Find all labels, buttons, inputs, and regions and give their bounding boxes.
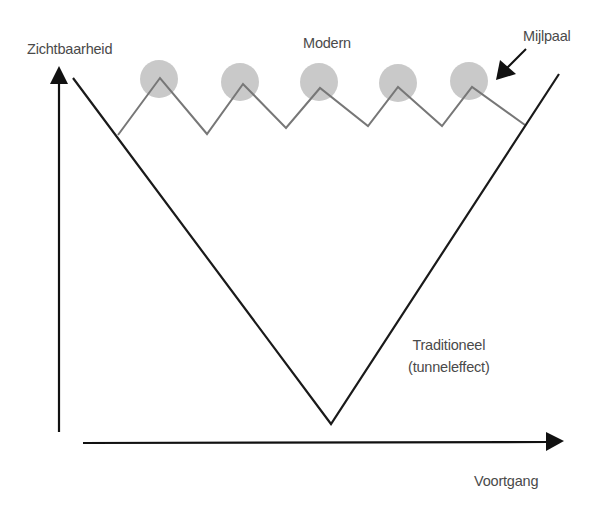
x-axis [83,432,564,451]
x-axis-label: Voortgang [474,474,538,489]
milestone-pointer-arrow-icon [496,49,526,80]
traditional-label: Traditioneel (tunneleffect) [408,334,490,378]
traditional-label-line2: (tunneleffect) [408,356,490,378]
y-axis [50,66,68,432]
milestone-circle [300,63,338,101]
traditional-label-line1: Traditioneel [408,334,490,356]
y-axis-arrowhead-icon [50,66,68,84]
diagram-canvas [0,0,613,510]
x-axis-arrowhead-icon [546,432,564,451]
milestone-circle [379,64,417,102]
y-axis-label: Zichtbaarheid [27,42,112,57]
milestone-label: Mijlpaal [523,29,571,44]
modern-label: Modern [303,36,351,51]
